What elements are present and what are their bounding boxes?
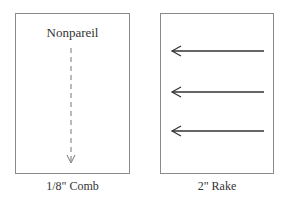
left-arrow-icon-3 (172, 126, 264, 136)
dashed-down-arrow-icon (67, 48, 75, 163)
left-arrow-icon-2 (172, 87, 264, 97)
diagram-strokes (0, 0, 292, 201)
left-arrow-icon-1 (172, 46, 264, 56)
